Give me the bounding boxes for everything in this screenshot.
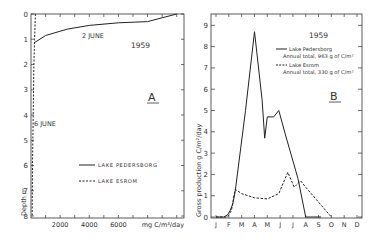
- panel-a: 012345678200040006000mg C/m³/dayDepth m2…: [20, 11, 184, 230]
- y-tick-label: 3: [24, 86, 28, 94]
- y-tick-label: 0: [24, 11, 28, 19]
- legend-label-pedersborg: Lake Pedersborg: [289, 46, 332, 53]
- y-tick-label: 2: [204, 171, 208, 179]
- x-axis-label: mg C/m³/day: [142, 221, 184, 229]
- month-label: M: [239, 221, 245, 229]
- y-tick-label: 1: [204, 192, 208, 200]
- x-tick-label: 4000: [81, 221, 98, 229]
- legend-label-esrom: Lake Esrom: [289, 62, 319, 68]
- month-label: N: [342, 221, 347, 229]
- y-tick-label: 0: [204, 214, 208, 222]
- legend-label-pedersborg: LAKE PEDERSBORG: [98, 162, 158, 168]
- y-tick-label: 5: [24, 137, 28, 145]
- annotation-6-june: 6 JUNE: [34, 120, 56, 128]
- annotation-2-june: 2 JUNE: [82, 32, 104, 40]
- month-label: J: [291, 221, 294, 229]
- y-tick-label: 2: [24, 61, 28, 69]
- month-label: M: [264, 221, 270, 229]
- month-label: A: [252, 221, 257, 229]
- month-label: F: [227, 221, 231, 229]
- y-tick-label: 4: [204, 128, 209, 136]
- panel-a-label: A: [148, 91, 156, 104]
- y-axis-label: Depth m: [20, 188, 28, 216]
- y-tick-label: 4: [24, 112, 29, 120]
- y-tick-label: 1: [24, 36, 28, 44]
- y-tick-label: 8: [204, 43, 208, 51]
- figure: 012345678200040006000mg C/m³/dayDepth m2…: [0, 0, 382, 240]
- y-tick-label: 6: [24, 162, 29, 170]
- panel-b-label: B: [330, 90, 338, 103]
- month-label: A: [304, 221, 309, 229]
- y-tick-label: 7: [204, 64, 208, 72]
- x-tick-label: 6000: [110, 221, 127, 229]
- month-label: S: [316, 221, 320, 229]
- month-label: O: [329, 221, 334, 229]
- series-pedersborg: [216, 32, 321, 217]
- y-tick-label: 3: [204, 150, 208, 158]
- month-label: D: [354, 221, 359, 229]
- y-tick-label: 6: [204, 86, 209, 94]
- panel-a-frame: [31, 14, 184, 218]
- y-tick-label: 5: [204, 107, 208, 115]
- x-tick-label: 2000: [52, 221, 69, 229]
- legend-note-pedersborg: Annual total, 963 g of C/m²: [283, 53, 354, 60]
- legend-label-esrom: LAKE ESROM: [98, 178, 138, 184]
- panel-a-year: 1959: [131, 41, 150, 50]
- panel-b-year: 1959: [309, 31, 328, 40]
- month-label: J: [278, 221, 281, 229]
- legend-note-esrom: Annual total, 330 g of C/m²: [283, 69, 354, 76]
- series-pedersborg: [34, 14, 177, 43]
- panel-b-frame: [211, 14, 362, 218]
- panel-b: 0123456789JFMAMJJASONDGross production g…: [195, 14, 362, 229]
- y-tick-label: 9: [204, 22, 208, 30]
- series-esrom: [216, 172, 331, 217]
- month-label: J: [214, 221, 217, 229]
- y-axis-label: Gross production g C/m²/day: [195, 123, 203, 217]
